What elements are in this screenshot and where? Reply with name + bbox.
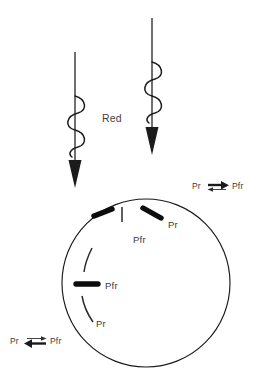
diagram-root: Red Pfr Pr Pfr Pr Pr Pfr: [0, 0, 260, 384]
equilibrium-top-right-right-label: Pfr: [232, 181, 243, 191]
equilibrium-bottom-left-reverse-arrowhead: [24, 339, 32, 348]
red-light-label: Red: [102, 112, 122, 124]
molecule-mark-pfr-top-right: [143, 208, 161, 218]
label-pr-lower: Pr: [96, 318, 106, 329]
molecule-marks: [76, 207, 161, 322]
equilibrium-bottom-left: Pr Pfr: [10, 336, 61, 348]
molecule-mark-pr-left-lower: [82, 296, 93, 322]
equilibrium-bottom-left-forward-arrowhead: [41, 336, 47, 341]
right-ray-arrowhead: [146, 127, 159, 155]
equilibrium-top-right-reverse-arrowhead: [208, 187, 214, 192]
equilibrium-top-right-forward-arrowhead: [221, 181, 229, 190]
left-ray-helix: [68, 96, 85, 157]
molecule-mark-pfr-top-left: [94, 209, 112, 216]
equilibrium-top-right: Pr Pfr: [192, 181, 243, 192]
molecule-mark-pr-left-upper: [84, 248, 92, 272]
left-ray-arrowhead: [69, 160, 82, 188]
label-pr-top-right: Pr: [168, 219, 178, 230]
label-pfr-mid: Pfr: [105, 280, 118, 291]
phytochrome-diagram: Red Pfr Pr Pfr Pr Pr Pfr: [0, 0, 260, 384]
equilibrium-top-right-left-label: Pr: [192, 181, 201, 191]
equilibrium-bottom-left-left-label: Pr: [10, 336, 19, 346]
right-red-ray: [145, 18, 162, 155]
label-pfr-top: Pfr: [133, 234, 146, 245]
left-red-ray: [68, 52, 85, 188]
right-ray-helix: [145, 62, 162, 123]
equilibrium-bottom-left-right-label: Pfr: [50, 336, 61, 346]
